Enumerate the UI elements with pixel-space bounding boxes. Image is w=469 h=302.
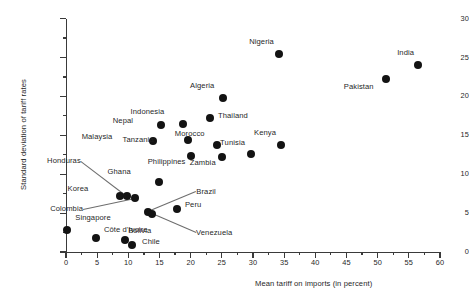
data-point-label: Pakistan [344,83,374,91]
x-tick-minor [299,252,300,255]
y-tick-label: 15 [417,131,469,139]
x-axis-title: Mean tariff on imports (in percent) [255,279,372,288]
x-tick-label: 55 [396,259,422,267]
x-tick-minor [81,252,82,255]
y-tick-label: 0 [417,248,469,256]
x-tick-minor [143,252,144,255]
x-tick [159,252,160,258]
data-point [148,210,156,218]
data-point-label: Honduras [47,157,81,165]
data-point-label: Morocco [175,130,205,138]
data-point [414,61,422,69]
plot-area: 051015202530051015202530354045505560 Sta… [0,0,469,302]
data-point-label: Bolivia [128,227,151,235]
x-tick-label: 10 [115,259,141,267]
data-point-label: Venezuela [196,229,232,237]
data-point-label: Thailand [218,112,248,120]
x-tick [252,252,253,258]
data-point-label: Ghana [107,168,130,176]
x-tick-label: 35 [271,259,297,267]
y-tick-label: 10 [417,170,469,178]
y-axis-title: Standard deviation of tariff rates [19,40,28,230]
x-tick-label: 30 [240,259,266,267]
x-tick-label: 15 [146,259,172,267]
y-tick [60,96,66,97]
x-tick-minor [174,252,175,255]
x-tick-minor [206,252,207,255]
y-tick-label: 20 [417,92,469,100]
x-tick [346,252,347,258]
data-point-label: Tunisia [220,139,245,147]
data-point-label: Korea [68,185,89,193]
data-point-label: Chile [142,238,160,246]
x-tick-label: 60 [427,259,453,267]
data-point [219,94,227,102]
x-tick-minor [268,252,269,255]
data-point-label: Algeria [190,82,214,90]
data-point [277,141,285,149]
x-tick [377,252,378,258]
data-point [179,120,187,128]
x-tick-label: 50 [365,259,391,267]
data-point-label: Tanzania [123,136,154,144]
data-point-label: Colombia [50,205,83,213]
y-axis-line [66,19,67,253]
x-tick-label: 20 [178,259,204,267]
data-point-label: Zambia [190,159,216,167]
y-tick [60,18,66,19]
data-point [92,234,100,242]
x-tick-label: 0 [53,259,79,267]
data-point [131,194,139,202]
x-tick [190,252,191,258]
y-tick [60,57,66,58]
data-point [206,114,214,122]
x-tick-label: 25 [209,259,235,267]
data-point-label: Kenya [254,129,276,137]
y-tick-minor [63,193,67,194]
y-tick-minor [63,76,67,77]
y-tick [60,135,66,136]
x-tick [128,252,129,258]
y-tick [60,213,66,214]
y-tick-minor [63,37,67,38]
data-point-label: Philippines [148,158,186,166]
data-point [173,205,181,213]
x-tick [221,252,222,258]
x-tick [97,252,98,258]
x-tick-minor [330,252,331,255]
data-point [128,241,136,249]
data-point-label: Nigeria [249,38,274,46]
data-point-label: Brazil [196,188,216,196]
x-tick-label: 45 [333,259,359,267]
leader-line [152,213,196,233]
x-tick [65,252,66,258]
y-tick-label: 30 [417,15,469,23]
scatter-chart: 051015202530051015202530354045505560 Sta… [0,0,469,302]
y-tick-label: 5 [417,209,469,217]
x-tick-minor [112,252,113,255]
x-tick-minor [237,252,238,255]
x-tick [284,252,285,258]
x-tick-minor [361,252,362,255]
y-tick-minor [63,115,67,116]
x-tick [315,252,316,258]
data-point-label: Peru [185,201,201,209]
data-point-label: Nepal [113,117,133,125]
data-point-label: Malaysia [82,133,113,141]
x-tick-label: 5 [84,259,110,267]
data-point-label: Singapore [75,214,111,222]
data-point [247,150,255,158]
data-point [155,178,163,186]
x-tick-minor [393,252,394,255]
data-point [157,121,165,129]
data-point [123,192,131,200]
data-point-label: India [397,49,414,57]
y-tick-label: 25 [417,54,469,62]
data-point [382,75,390,83]
y-tick [60,174,66,175]
data-point-label: Indonesia [131,108,165,116]
x-tick-label: 40 [302,259,328,267]
x-tick [408,252,409,258]
data-point [63,226,71,234]
data-point [218,153,226,161]
